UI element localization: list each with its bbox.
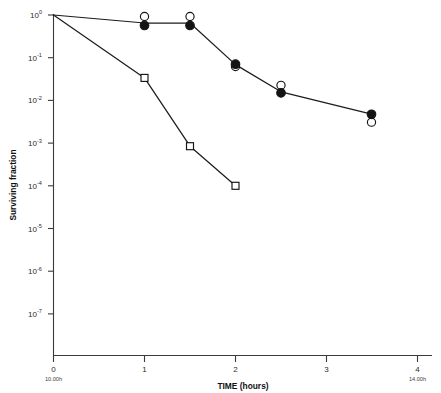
marker-open-circle xyxy=(367,118,375,126)
x-tick-sublabel-start: 10.00h xyxy=(45,376,62,382)
marker-open-square xyxy=(232,182,239,189)
series-filled-circles xyxy=(54,15,372,114)
y-tick-label-4: 10-4 xyxy=(28,180,42,191)
marker-filled-circle xyxy=(367,110,376,119)
y-tick-label-7: 10-7 xyxy=(28,308,42,319)
x-axis-ticks: 0 1 2 3 4 10.00h 14.00h xyxy=(45,356,426,382)
marker-filled-circle xyxy=(140,21,149,30)
survival-curve-chart: 100 10-1 10-2 10-3 10-4 10-5 10-6 10-7 0… xyxy=(0,0,441,393)
y-axis-title: Surviving fraction xyxy=(8,149,18,220)
filled-circles-line xyxy=(54,15,372,114)
marker-open-square xyxy=(187,143,194,150)
x-tick-label-3: 3 xyxy=(324,365,329,374)
marker-filled-circle xyxy=(186,21,195,30)
y-tick-label-0: 100 xyxy=(30,9,42,20)
marker-open-circle xyxy=(140,12,148,20)
series-open-circles xyxy=(140,12,375,126)
y-tick-label-6: 10-6 xyxy=(28,266,42,277)
figure-container: 100 10-1 10-2 10-3 10-4 10-5 10-6 10-7 0… xyxy=(0,0,441,393)
y-tick-label-2: 10-2 xyxy=(28,95,42,106)
y-axis-ticks: 100 10-1 10-2 10-3 10-4 10-5 10-6 10-7 xyxy=(28,9,54,319)
x-tick-label-1: 1 xyxy=(142,365,147,374)
filled-circle-markers xyxy=(140,21,376,118)
x-tick-sublabel-end: 14.00h xyxy=(409,376,426,382)
marker-open-circle xyxy=(186,12,194,20)
open-squares-line xyxy=(54,15,236,186)
marker-open-square xyxy=(141,74,148,81)
y-tick-label-1: 10-1 xyxy=(28,52,42,63)
y-tick-label-3: 10-3 xyxy=(28,138,42,149)
series-open-squares xyxy=(54,15,240,189)
x-axis-title: TIME (hours) xyxy=(217,381,268,391)
marker-filled-circle xyxy=(277,89,286,98)
axes-group xyxy=(53,14,432,356)
marker-filled-circle xyxy=(231,60,240,69)
x-tick-label-4: 4 xyxy=(415,365,420,374)
x-tick-label-0: 0 xyxy=(51,365,56,374)
y-tick-label-5: 10-5 xyxy=(28,223,42,234)
x-tick-label-2: 2 xyxy=(233,365,238,374)
